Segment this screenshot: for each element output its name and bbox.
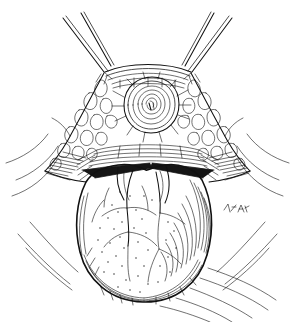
anatomical-figure: Perineal region with prolapsed mass [0,0,295,322]
line-drawing-canvas [0,0,295,322]
